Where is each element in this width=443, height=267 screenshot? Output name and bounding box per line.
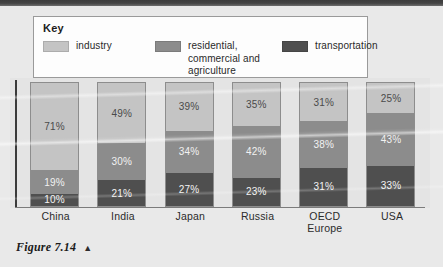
x-axis-label: USA [358,210,425,234]
legend-label-residential: residential, commercial and agriculture [188,40,282,78]
bar-group: 31%38%31% [291,82,358,207]
bar-segment-residential: 43% [367,113,414,165]
y-axis-line [15,80,17,208]
legend-swatch-industry-icon [43,41,69,52]
figure-container: Key industry residential, commercial and… [0,6,443,267]
legend-item-transportation: transportation [282,40,365,53]
legend-box: Key industry residential, commercial and… [33,16,368,78]
bar-segment-value-label: 30% [111,156,132,167]
bar-segment-residential: 30% [98,143,145,180]
bar-segment-value-label: 43% [381,134,402,145]
x-axis-label: OECDEurope [291,210,358,234]
bar-segment-transportation: 21% [98,180,145,206]
bar-group: 71%19%10% [22,82,89,207]
bar-segment-industry: 39% [166,83,213,131]
bar-group: 49%30%21% [89,82,156,207]
bar-segment-transportation: 27% [166,173,213,206]
bar-segment-residential: 42% [233,126,280,178]
bar-segment-value-label: 71% [44,121,65,132]
stacked-bar: 35%42%23% [232,82,281,207]
bar-group: 35%42%23% [224,82,291,207]
x-axis-label: Japan [157,210,224,234]
legend-item-residential: residential, commercial and agriculture [155,40,282,78]
bar-segment-transportation: 23% [233,178,280,206]
bar-segment-value-label: 23% [246,186,267,197]
triangle-up-icon: ▲ [83,242,92,254]
bar-segment-industry: 71% [31,83,78,170]
stacked-bar: 71%19%10% [30,82,79,207]
figure-caption-text: Figure 7.14 [16,240,76,255]
bar-segment-residential: 38% [300,121,347,168]
bar-segment-value-label: 39% [179,101,200,112]
bar-segment-industry: 25% [367,83,414,113]
stacked-bar: 49%30%21% [97,82,146,207]
bar-segment-transportation: 31% [300,168,347,206]
bar-segment-value-label: 35% [246,99,267,110]
bar-segment-value-label: 10% [44,194,65,205]
chart-plot-area: 71%19%10%49%30%21%39%34%27%35%42%23%31%3… [0,78,443,238]
x-axis-label: China [22,210,89,234]
bar-segment-industry: 49% [98,83,145,143]
bar-segment-industry: 35% [233,83,280,126]
bar-group: 25%43%33% [358,82,425,207]
bar-segment-value-label: 31% [313,181,334,192]
x-axis-line [15,207,425,208]
legend-item-industry: industry [43,40,155,53]
bar-segment-residential: 34% [166,131,213,173]
x-axis-label: India [89,210,156,234]
bar-segment-value-label: 21% [111,188,132,199]
bar-segment-value-label: 33% [381,180,402,191]
bar-segment-value-label: 27% [179,184,200,195]
legend-swatch-residential-icon [155,41,181,52]
stacked-bar: 25%43%33% [366,82,415,207]
legend-swatch-transportation-icon [282,41,308,52]
bar-segment-industry: 31% [300,83,347,121]
bar-segment-residential: 19% [31,170,78,193]
stacked-bar: 31%38%31% [299,82,348,207]
bar-segment-value-label: 49% [111,108,132,119]
bar-segment-transportation: 10% [31,194,78,206]
bar-segment-value-label: 19% [44,177,65,188]
stacked-bar: 39%34%27% [165,82,214,207]
bar-segment-value-label: 34% [179,146,200,157]
bar-segment-transportation: 33% [367,166,414,206]
legend-title: Key [43,22,367,35]
legend-entries: industry residential, commercial and agr… [43,40,365,78]
legend-label-transportation: transportation [315,40,378,53]
bar-segment-value-label: 25% [381,93,402,104]
x-axis-labels: ChinaIndiaJapanRussiaOECDEuropeUSA [22,210,426,234]
stacked-bars: 71%19%10%49%30%21%39%34%27%35%42%23%31%3… [22,82,426,207]
bar-segment-value-label: 38% [313,139,334,150]
bar-segment-value-label: 42% [246,146,267,157]
bar-segment-value-label: 31% [313,97,334,108]
bar-group: 39%34%27% [157,82,224,207]
legend-label-industry: industry [76,40,112,53]
x-axis-label: Russia [224,210,291,234]
figure-caption: Figure 7.14 ▲ [16,240,92,255]
